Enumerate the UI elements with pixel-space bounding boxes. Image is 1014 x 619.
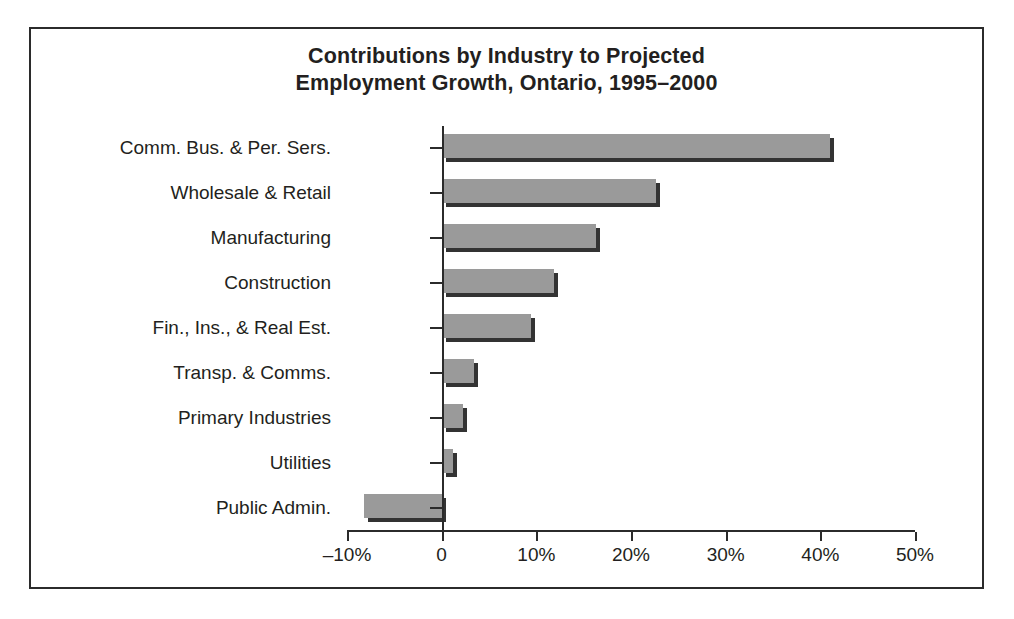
y-axis-label: Public Admin. <box>216 497 331 519</box>
plot-area: –10%010%20%30%40%50% <box>347 126 947 546</box>
y-axis-label-row: Primary Industries <box>71 395 343 440</box>
y-axis-tick <box>430 192 442 194</box>
x-axis-tick <box>915 532 917 541</box>
y-axis-label: Utilities <box>270 452 331 474</box>
x-axis-tick <box>536 532 538 541</box>
x-axis-tick <box>726 532 728 541</box>
x-axis-tick <box>347 532 349 541</box>
x-axis-tick-label: 0 <box>436 544 447 566</box>
bar <box>442 224 596 248</box>
y-axis-tick <box>430 417 442 419</box>
y-axis-label: Primary Industries <box>178 407 331 429</box>
bar <box>364 494 442 518</box>
bar <box>442 314 531 338</box>
bar <box>442 269 555 293</box>
y-axis-label-row: Construction <box>71 261 343 306</box>
y-axis-tick <box>430 327 442 329</box>
y-axis-label: Transp. & Comms. <box>173 362 331 384</box>
chart-title-line-1: Contributions by Industry to Projected <box>31 43 982 70</box>
zero-axis-line <box>442 126 444 530</box>
y-axis-label-row: Utilities <box>71 440 343 485</box>
bar <box>442 359 474 383</box>
chart-title-line-2: Employment Growth, Ontario, 1995–2000 <box>31 70 982 97</box>
y-axis-label-column: Comm. Bus. & Per. Sers. Wholesale & Reta… <box>71 126 343 530</box>
chart-title: Contributions by Industry to Projected E… <box>31 43 982 97</box>
x-axis-tick-label: 20% <box>612 544 650 566</box>
y-axis-label-row: Manufacturing <box>71 216 343 261</box>
x-axis-tick-label: 50% <box>896 544 934 566</box>
y-axis-label: Manufacturing <box>211 227 331 249</box>
x-axis-tick <box>442 532 444 541</box>
y-axis-tick <box>430 462 442 464</box>
y-axis-label-row: Fin., Ins., & Real Est. <box>71 306 343 351</box>
y-axis-label-row: Comm. Bus. & Per. Sers. <box>71 126 343 171</box>
y-axis-label: Comm. Bus. & Per. Sers. <box>120 137 331 159</box>
x-axis-line <box>347 530 915 532</box>
y-axis-label: Construction <box>224 272 331 294</box>
bar <box>442 134 830 158</box>
x-axis-tick-label: –10% <box>323 544 372 566</box>
x-axis-tick-label: 40% <box>801 544 839 566</box>
x-axis-tick-label: 10% <box>517 544 555 566</box>
x-axis-tick-label: 30% <box>707 544 745 566</box>
y-axis-label: Fin., Ins., & Real Est. <box>153 317 331 339</box>
y-axis-label-row: Wholesale & Retail <box>71 171 343 216</box>
y-axis-tick <box>430 282 442 284</box>
bar <box>442 404 464 428</box>
x-axis-tick <box>631 532 633 541</box>
y-axis-tick <box>430 372 442 374</box>
y-axis-label-row: Public Admin. <box>71 485 343 530</box>
bar <box>442 179 656 203</box>
y-axis-tick <box>430 237 442 239</box>
figure-frame: Contributions by Industry to Projected E… <box>29 27 984 589</box>
y-axis-tick <box>430 507 442 509</box>
y-axis-label-row: Transp. & Comms. <box>71 350 343 395</box>
y-axis-tick <box>430 147 442 149</box>
x-axis-tick <box>820 532 822 541</box>
y-axis-label: Wholesale & Retail <box>170 182 331 204</box>
